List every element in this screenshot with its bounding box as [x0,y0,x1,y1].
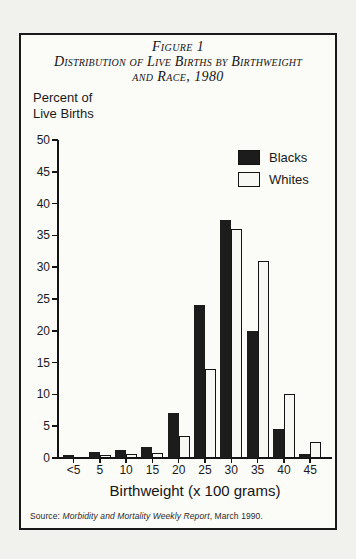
y-axis-label-line2: Live Births [33,106,94,122]
figure-title-line3: and Race, 1980 [19,69,337,85]
legend-swatch-whites [238,172,260,187]
figure-title-line2: Distribution of Live Births by Birthweig… [19,54,337,70]
source-line: Source: Morbidity and Mortality Weekly R… [30,511,263,521]
y-axis-label: Percent of Live Births [33,90,94,122]
figure-number: Figure 1 [19,39,337,55]
legend-label-blacks: Blacks [269,150,307,165]
legend-label-whites: Whites [269,172,309,187]
legend-swatch-blacks [238,150,260,165]
source-publication: Morbidity and Mortality Weekly Report [62,511,209,521]
source-suffix: , March 1990. [210,511,263,521]
source-prefix: Source: [30,511,62,521]
x-axis-title: Birthweight (x 100 grams) [58,482,332,499]
y-axis-label-line1: Percent of [33,90,94,106]
